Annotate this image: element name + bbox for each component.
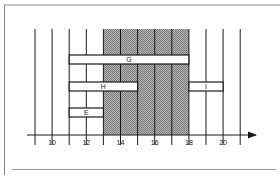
- interval-diagram: 101214161820 GHIE: [0, 0, 280, 175]
- interval-label-i: I: [205, 83, 207, 90]
- interval-label-g: G: [126, 56, 131, 63]
- x-tick-label: 18: [185, 139, 193, 146]
- interval-label-e: E: [84, 109, 89, 116]
- interval-label-h: H: [101, 83, 106, 90]
- x-tick-label: 14: [117, 139, 125, 146]
- x-tick-label: 12: [82, 139, 90, 146]
- x-tick-label: 16: [151, 139, 159, 146]
- x-tick-label: 10: [48, 139, 56, 146]
- x-tick-label: 20: [219, 139, 227, 146]
